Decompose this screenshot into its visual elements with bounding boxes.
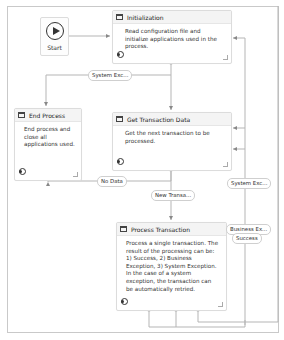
state-description: End process and close all applications u… xyxy=(15,122,81,149)
play-circle-icon xyxy=(46,22,64,40)
start-node[interactable]: Start xyxy=(40,17,69,56)
transition-system-exception-process[interactable]: System Exc... xyxy=(227,178,271,189)
transition-no-data[interactable]: No Data xyxy=(97,176,127,187)
start-label: Start xyxy=(41,44,68,51)
transition-success[interactable]: Success xyxy=(232,233,262,244)
state-icon xyxy=(116,14,123,20)
state-get-transaction-data[interactable]: Get Transaction Data Get the next transa… xyxy=(112,112,232,171)
state-icon xyxy=(116,116,123,122)
state-title: Initialization xyxy=(127,14,164,21)
state-description: Read configuration file and initialize a… xyxy=(113,24,231,51)
state-title: End Process xyxy=(29,112,65,119)
resize-grip-icon[interactable] xyxy=(73,172,78,177)
resize-grip-icon[interactable] xyxy=(218,302,223,307)
entry-icon xyxy=(117,158,124,165)
entry-icon xyxy=(117,51,124,58)
entry-icon xyxy=(19,168,26,175)
state-title: Get Transaction Data xyxy=(127,116,190,123)
state-initialization[interactable]: Initialization Read configuration file a… xyxy=(112,10,232,64)
state-description: Get the next transaction to be processed… xyxy=(113,126,231,145)
resize-grip-icon[interactable] xyxy=(223,55,228,60)
state-end-process[interactable]: End Process End process and close all ap… xyxy=(14,108,82,181)
state-icon xyxy=(120,226,127,232)
resize-grip-icon[interactable] xyxy=(223,162,228,167)
state-description: Process a single transaction. The result… xyxy=(117,236,226,293)
transition-system-exception-init[interactable]: System Exc... xyxy=(88,70,132,81)
transition-new-transaction[interactable]: New Transa... xyxy=(151,190,195,201)
state-title: Process Transaction xyxy=(131,226,190,233)
entry-icon xyxy=(121,298,128,305)
state-process-transaction[interactable]: Process Transaction Process a single tra… xyxy=(116,222,227,311)
final-state-icon xyxy=(18,112,25,118)
